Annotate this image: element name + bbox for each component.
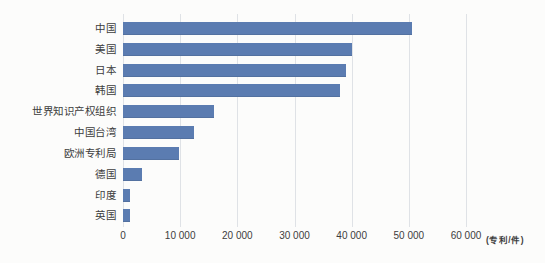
category-label: 日本 [0, 60, 116, 81]
category-label: 德国 [0, 164, 116, 185]
x-tick-label: 40 000 [322, 230, 382, 241]
x-tick-label: 50 000 [379, 230, 439, 241]
bar-row: 中国台湾 [0, 122, 545, 143]
bar-8 [123, 168, 142, 181]
category-label: 中国台湾 [0, 122, 116, 143]
bar-4 [123, 84, 340, 97]
bar-2 [123, 43, 352, 56]
bar-3 [123, 64, 346, 77]
bar-row: 美国 [0, 39, 545, 60]
bar-10 [123, 209, 130, 222]
bar-1 [123, 22, 412, 35]
bar-9 [123, 189, 130, 202]
x-tick-label: 30 000 [265, 230, 325, 241]
patent-bar-chart: 中国美国日本韩国世界知识产权组织中国台湾欧洲专利局德国印度英国 010 0002… [0, 0, 545, 263]
category-label: 中国 [0, 18, 116, 39]
category-label: 欧洲专利局 [0, 143, 116, 164]
x-tick-label: 0 [93, 230, 153, 241]
category-label: 世界知识产权组织 [0, 101, 116, 122]
bar-7 [123, 147, 179, 160]
bar-row: 日本 [0, 60, 545, 81]
bar-row: 印度 [0, 185, 545, 206]
category-label: 韩国 [0, 80, 116, 101]
x-tick-label: 10 000 [150, 230, 210, 241]
category-label: 美国 [0, 39, 116, 60]
bar-5 [123, 105, 214, 118]
bar-row: 韩国 [0, 80, 545, 101]
category-label: 印度 [0, 185, 116, 206]
bar-row: 德国 [0, 164, 545, 185]
bar-6 [123, 126, 194, 139]
category-label: 英国 [0, 205, 116, 226]
bar-row: 英国 [0, 205, 545, 226]
axis-unit-label: (专利/件) [486, 233, 524, 245]
bar-row: 欧洲专利局 [0, 143, 545, 164]
bar-row: 中国 [0, 18, 545, 39]
x-tick-label: 20 000 [207, 230, 267, 241]
bar-row: 世界知识产权组织 [0, 101, 545, 122]
